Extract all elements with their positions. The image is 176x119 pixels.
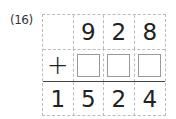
- digit-cell: 5: [74, 82, 105, 116]
- plus-sign: +: [43, 48, 74, 82]
- addition-grid: 9 2 8 + 1 5 2 4: [42, 14, 166, 116]
- digit-cell: 4: [135, 82, 165, 116]
- answer-box-hundreds[interactable]: [77, 54, 100, 77]
- digit-cell: 9: [74, 15, 105, 49]
- digit-cell: 8: [135, 15, 165, 49]
- digit-cell: 2: [104, 82, 135, 116]
- top-addend-row: 9 2 8: [43, 15, 165, 50]
- missing-addend-row: +: [43, 48, 165, 82]
- problem-number: (16): [10, 13, 33, 27]
- digit-cell: 2: [104, 15, 135, 49]
- answer-box-tens[interactable]: [107, 54, 130, 77]
- answer-box-ones[interactable]: [138, 54, 161, 77]
- digit-cell: 1: [43, 82, 74, 116]
- sum-row: 1 5 2 4: [43, 82, 165, 116]
- digit-cell: [43, 15, 74, 49]
